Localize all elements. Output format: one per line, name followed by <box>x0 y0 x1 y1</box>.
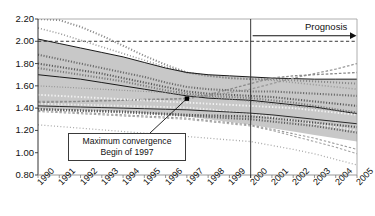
prognosis-label: Prognosis <box>305 21 347 32</box>
y-tick-label-1.20: 1.20 <box>0 124 34 135</box>
y-tick-label-1.40: 1.40 <box>0 102 34 113</box>
y-tick-label-1.80: 1.80 <box>0 58 34 69</box>
annotation-line-1: Maximum convergence <box>73 136 181 147</box>
y-tick-label-1.00: 1.00 <box>0 147 34 158</box>
y-tick-label-1.60: 1.60 <box>0 80 34 91</box>
y-tick-label-0.80: 0.80 <box>0 169 34 180</box>
convergence-point-marker <box>185 96 189 100</box>
annotation-line-2: Begin of 1997 <box>73 147 181 158</box>
y-tick-label-2.00: 2.00 <box>0 35 34 46</box>
maximum-convergence-annotation: Maximum convergence Begin of 1997 <box>68 133 186 161</box>
mask-top <box>0 0 368 19</box>
y-tick-label-2.20: 2.20 <box>0 13 34 24</box>
